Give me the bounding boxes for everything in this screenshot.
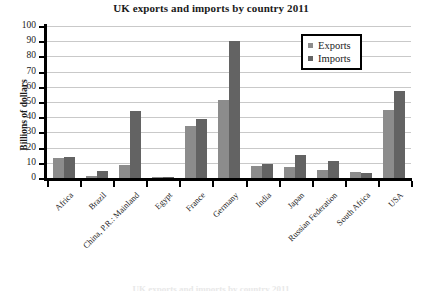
x-axis-tick-mark	[411, 181, 413, 187]
bar-imports	[196, 119, 207, 178]
bar-group	[383, 26, 405, 178]
bar-exports	[251, 166, 262, 178]
y-axis-tick-label: 30	[12, 126, 36, 136]
legend-swatch-icon	[308, 56, 313, 61]
bar-exports	[383, 110, 394, 178]
bar-imports	[64, 157, 75, 178]
bar-exports	[119, 165, 130, 178]
bar-imports	[229, 41, 240, 178]
x-axis-tick-mark	[146, 181, 148, 187]
y-axis-tick-label: 10	[12, 157, 36, 167]
x-axis-tick-mark	[312, 181, 314, 187]
bar-exports	[218, 100, 229, 178]
legend-label: Exports	[318, 40, 351, 52]
legend-item: Imports	[308, 52, 351, 65]
x-axis-tick-mark	[279, 181, 281, 187]
y-axis-tick-label: 50	[12, 96, 36, 106]
bar-imports	[328, 161, 339, 178]
legend-label: Imports	[318, 53, 351, 65]
bar-imports	[97, 171, 108, 178]
bar-exports	[185, 126, 196, 178]
bar-exports	[53, 158, 64, 178]
bar-imports	[130, 111, 141, 178]
x-axis-tick-mark	[113, 181, 115, 187]
x-axis-tick-mark	[345, 181, 347, 187]
bar-group	[119, 26, 141, 178]
bar-imports	[295, 155, 306, 178]
bar-imports	[361, 173, 372, 178]
bar-exports	[350, 172, 361, 178]
bottom-caption: UK exports and imports by country 2011	[0, 284, 422, 291]
chart-legend: ExportsImports	[301, 34, 362, 70]
y-axis-tick-label: 20	[12, 142, 36, 152]
x-axis-line	[44, 178, 412, 181]
y-axis-tick-label: 90	[12, 35, 36, 45]
bar-exports	[152, 177, 163, 178]
x-axis-tick-mark	[378, 181, 380, 187]
y-axis-tick-label: 60	[12, 81, 36, 91]
chart-title: UK exports and imports by country 2011	[0, 2, 422, 14]
bar-group	[53, 26, 75, 178]
y-axis-tick-label: 40	[12, 111, 36, 121]
bar-group	[218, 26, 240, 178]
y-axis-tick-label: 80	[12, 50, 36, 60]
bar-exports	[86, 176, 97, 178]
bar-group	[185, 26, 207, 178]
bar-exports	[284, 167, 295, 178]
y-axis-tick-label: 70	[12, 66, 36, 76]
y-axis-tick-label: 0	[12, 172, 36, 182]
legend-swatch-icon	[308, 43, 313, 48]
bar-group	[86, 26, 108, 178]
bar-imports	[163, 177, 174, 178]
legend-item: Exports	[308, 39, 351, 52]
bar-group	[152, 26, 174, 178]
y-axis-tick-label: 100	[12, 20, 36, 30]
x-axis-tick-mark	[246, 181, 248, 187]
x-axis-tick-mark	[80, 181, 82, 187]
bar-group	[251, 26, 273, 178]
x-axis-tick-mark	[47, 181, 49, 187]
x-axis-tick-mark	[212, 181, 214, 187]
bar-imports	[262, 164, 273, 178]
bar-exports	[317, 170, 328, 178]
bar-chart-figure: UK exports and imports by country 2011 B…	[0, 0, 422, 291]
x-axis-tick-mark	[179, 181, 181, 187]
bar-imports	[394, 91, 405, 178]
